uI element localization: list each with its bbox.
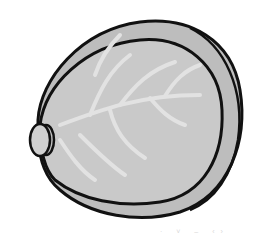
stem-front: [30, 124, 50, 156]
watermark-text: · ˅ ‒ ‹›: [160, 228, 260, 238]
cabbage-illustration: [0, 0, 265, 241]
cabbage-icon: [0, 0, 265, 241]
